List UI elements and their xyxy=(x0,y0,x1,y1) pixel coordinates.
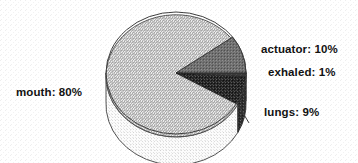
slice-label-exhaled: exhaled: 1% xyxy=(268,66,336,79)
slice-label-actuator: actuator: 10% xyxy=(261,43,338,56)
slice-label-lungs: lungs: 9% xyxy=(264,106,319,119)
slice-label-mouth: mouth: 80% xyxy=(16,86,82,99)
pie-chart-figure: actuator: 10% exhaled: 1% lungs: 9% mout… xyxy=(0,0,358,163)
pie-chart-graphic xyxy=(0,0,358,163)
